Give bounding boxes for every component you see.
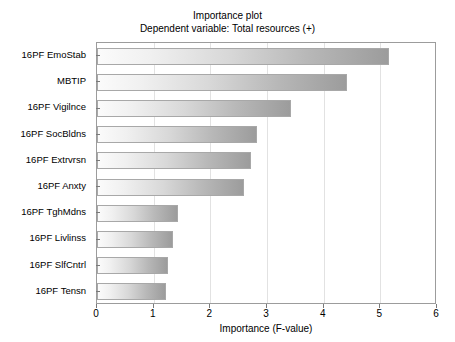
- y-axis-label: 16PF SocBldns: [21, 121, 86, 147]
- bar-row: [97, 174, 435, 200]
- x-axis-tick-label: 1: [138, 308, 168, 319]
- bar: [97, 126, 257, 143]
- bar: [97, 48, 389, 65]
- y-axis-tick: [96, 134, 100, 135]
- chart-title-block: Importance plot Dependent variable: Tota…: [0, 9, 455, 35]
- y-axis-tick: [96, 81, 100, 82]
- importance-plot-chart: Importance plot Dependent variable: Tota…: [0, 0, 455, 342]
- y-axis-tick: [96, 55, 100, 56]
- x-axis-tick-label: 3: [251, 308, 281, 319]
- bar: [97, 283, 166, 300]
- bar: [97, 179, 244, 196]
- x-axis-tick-label: 0: [81, 308, 111, 319]
- plot-area: [96, 42, 436, 304]
- y-axis-tick: [96, 108, 100, 109]
- y-axis-category-labels: 16PF EmoStabMBTIP16PF Vigilnce16PF SocBl…: [0, 42, 92, 304]
- chart-subtitle: Dependent variable: Total resources (+): [0, 22, 455, 35]
- y-axis-tick: [96, 212, 100, 213]
- bar-row: [97, 279, 435, 305]
- x-axis-tick-label: 2: [194, 308, 224, 319]
- bar: [97, 74, 347, 91]
- y-axis-tick: [96, 265, 100, 266]
- bar-row: [97, 226, 435, 252]
- x-axis-tick-label: 5: [364, 308, 394, 319]
- y-axis-label: 16PF EmoStab: [22, 42, 86, 68]
- y-axis-label: 16PF Tensn: [35, 278, 86, 304]
- y-axis-label: 16PF Vigilnce: [28, 94, 86, 120]
- y-axis-label: 16PF Anxty: [37, 173, 86, 199]
- x-axis-title: Importance (F-value): [96, 323, 436, 334]
- bar-row: [97, 69, 435, 95]
- y-axis-label: MBTIP: [57, 68, 86, 94]
- x-axis-tick-labels: 0123456: [96, 308, 436, 322]
- page-title: Importance plot: [0, 9, 455, 22]
- x-axis-tick-label: 4: [308, 308, 338, 319]
- y-axis-label: 16PF Extrvrsn: [26, 147, 86, 173]
- bar-row: [97, 43, 435, 69]
- bar-row: [97, 148, 435, 174]
- bar: [97, 100, 291, 117]
- bar: [97, 205, 178, 222]
- bar-row: [97, 95, 435, 121]
- bar: [97, 152, 251, 169]
- bar-row: [97, 122, 435, 148]
- y-axis-tick: [96, 160, 100, 161]
- y-axis-tick: [96, 186, 100, 187]
- y-axis-label: 16PF SlfCntrl: [30, 252, 87, 278]
- y-axis-tick: [96, 291, 100, 292]
- y-axis-label: 16PF TghMdns: [21, 199, 86, 225]
- x-axis-tick-label: 6: [421, 308, 451, 319]
- bar: [97, 231, 173, 248]
- y-axis-label: 16PF Livlinss: [30, 225, 87, 251]
- bar: [97, 257, 168, 274]
- bar-row: [97, 200, 435, 226]
- bars-layer: [97, 43, 435, 303]
- y-axis-tick: [96, 239, 100, 240]
- bar-row: [97, 253, 435, 279]
